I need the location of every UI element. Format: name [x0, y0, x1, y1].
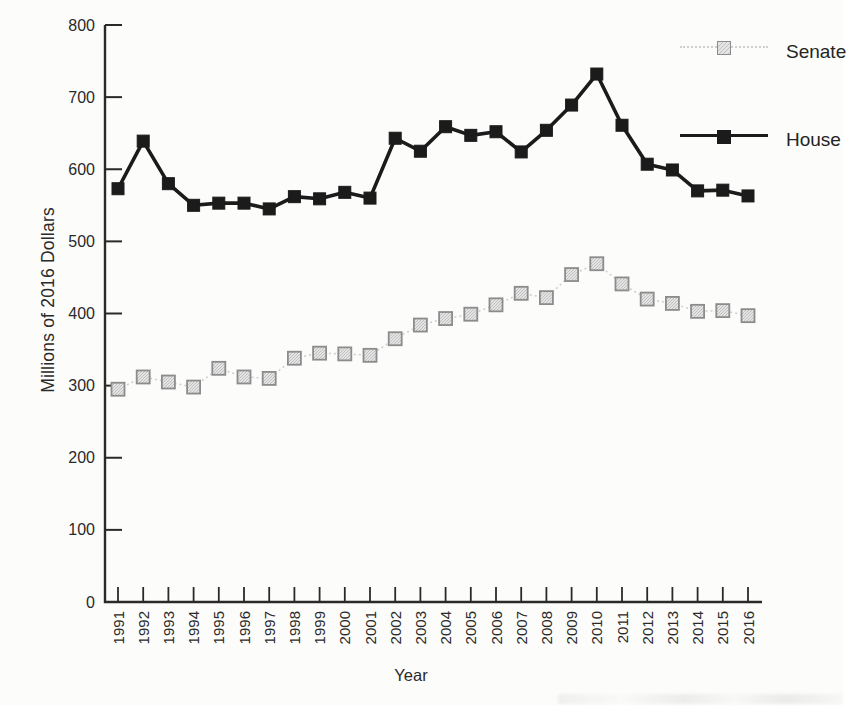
y-tick-label-100: 100: [68, 521, 95, 538]
x-tick-label-1996: 1996: [236, 611, 253, 644]
y-tick-label-500: 500: [68, 233, 95, 250]
x-tick-label-2006: 2006: [488, 611, 505, 644]
marker-senate-2005: [464, 308, 477, 321]
x-tick-label-2007: 2007: [513, 611, 530, 644]
x-axis-ticks: 1991199219931994199519961997199819992000…: [110, 587, 757, 644]
legend-label-house: House: [786, 129, 841, 151]
marker-house-2011: [616, 119, 628, 131]
axis-lines: [105, 25, 762, 602]
marker-senate-1997: [263, 372, 276, 385]
marker-house-2004: [440, 121, 452, 133]
marker-senate-2009: [565, 268, 578, 281]
x-tick-label-2004: 2004: [437, 611, 454, 644]
marker-senate-1998: [288, 352, 301, 365]
x-tick-label-1997: 1997: [261, 611, 278, 644]
marker-senate-2013: [666, 297, 679, 310]
y-tick-label-0: 0: [86, 594, 95, 611]
marker-senate-1996: [238, 370, 251, 383]
marker-senate-2016: [742, 309, 755, 322]
marker-house-2007: [515, 146, 527, 158]
marker-senate-2014: [691, 305, 704, 318]
x-tick-label-1994: 1994: [185, 611, 202, 644]
marker-senate-1994: [187, 381, 200, 394]
y-tick-label-400: 400: [68, 305, 95, 322]
series-house: [112, 68, 754, 215]
series-senate: [112, 257, 755, 395]
y-tick-label-300: 300: [68, 377, 95, 394]
y-axis-title: Millions of 2016 Dollars: [38, 207, 59, 393]
marker-house-1998: [288, 191, 300, 203]
x-tick-label-2015: 2015: [714, 611, 731, 644]
marker-house-1996: [238, 197, 250, 209]
marker-house-2001: [364, 192, 376, 204]
legend-item-house: House: [680, 124, 841, 146]
marker-senate-1999: [313, 347, 326, 360]
marker-senate-1991: [112, 383, 125, 396]
house-marker-icon: [717, 130, 731, 144]
x-tick-label-2008: 2008: [538, 611, 555, 644]
marker-senate-2008: [540, 291, 553, 304]
x-tick-label-2016: 2016: [740, 611, 757, 644]
marker-senate-1992: [137, 370, 150, 383]
marker-house-2009: [566, 99, 578, 111]
x-tick-label-1998: 1998: [286, 611, 303, 644]
marker-house-2014: [692, 185, 704, 197]
y-tick-label-600: 600: [68, 161, 95, 178]
marker-house-2005: [465, 129, 477, 141]
legend-label-senate: Senate: [786, 41, 846, 63]
marker-house-1991: [112, 183, 124, 195]
senate-marker-icon: [717, 41, 731, 55]
marker-house-2003: [414, 145, 426, 157]
marker-senate-1995: [212, 362, 225, 375]
marker-house-1993: [162, 178, 174, 190]
marker-senate-2006: [490, 298, 503, 311]
legend-item-senate: Senate: [680, 36, 846, 58]
y-tick-label-200: 200: [68, 449, 95, 466]
y-axis-ticks: 0100200300400500600700800: [68, 17, 122, 611]
x-tick-label-1991: 1991: [110, 611, 127, 644]
marker-house-2006: [490, 126, 502, 138]
x-tick-label-1999: 1999: [311, 611, 328, 644]
x-tick-label-2014: 2014: [689, 611, 706, 644]
series-house-line: [118, 74, 748, 209]
marker-house-1999: [314, 193, 326, 205]
marker-senate-2010: [590, 257, 603, 270]
x-tick-label-1993: 1993: [160, 611, 177, 644]
marker-senate-2012: [641, 293, 654, 306]
marker-senate-2000: [338, 347, 351, 360]
marker-house-2015: [717, 184, 729, 196]
marker-house-1994: [188, 199, 200, 211]
marker-house-2010: [591, 68, 603, 80]
marker-senate-2001: [364, 349, 377, 362]
x-tick-label-2003: 2003: [412, 611, 429, 644]
x-tick-label-2010: 2010: [588, 611, 605, 644]
house-line-swatch: [680, 134, 768, 137]
marker-house-1995: [213, 197, 225, 209]
marker-senate-2015: [716, 304, 729, 317]
x-tick-label-1995: 1995: [210, 611, 227, 644]
marker-senate-1993: [162, 376, 175, 389]
x-tick-label-2001: 2001: [362, 611, 379, 644]
x-tick-label-2000: 2000: [336, 611, 353, 644]
x-tick-label-2013: 2013: [664, 611, 681, 644]
x-tick-label-2012: 2012: [639, 611, 656, 644]
x-tick-label-2009: 2009: [563, 611, 580, 644]
marker-senate-2004: [439, 312, 452, 325]
marker-senate-2007: [515, 287, 528, 300]
x-tick-label-2011: 2011: [614, 611, 631, 643]
y-tick-label-800: 800: [68, 17, 95, 34]
marker-house-2012: [641, 158, 653, 170]
marker-house-2008: [540, 124, 552, 136]
senate-line-swatch: [680, 46, 768, 48]
marker-house-1997: [263, 203, 275, 215]
marker-house-2002: [389, 132, 401, 144]
marker-senate-2003: [414, 319, 427, 332]
y-tick-label-700: 700: [68, 89, 95, 106]
x-tick-label-2005: 2005: [462, 611, 479, 644]
marker-house-2016: [742, 190, 754, 202]
marker-senate-2011: [616, 277, 629, 290]
x-tick-label-1992: 1992: [135, 611, 152, 644]
marker-senate-2002: [389, 332, 402, 345]
